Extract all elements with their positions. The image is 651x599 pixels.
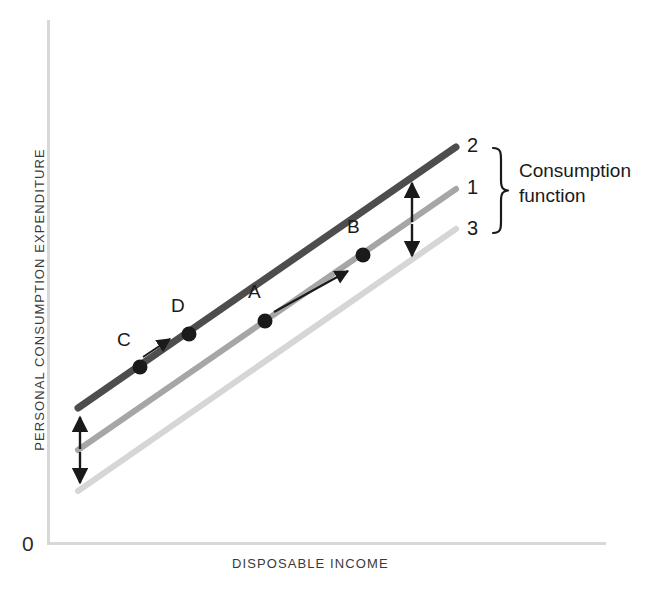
legend-brace: [493, 148, 508, 233]
curly-brace-icon: [493, 148, 508, 233]
chart-canvas: [0, 0, 651, 599]
x-axis-title: DISPOSABLE INCOME: [232, 556, 389, 571]
legend-caption: Consumption function: [519, 158, 649, 208]
data-point-b: [356, 248, 371, 263]
point-label-c: C: [117, 329, 131, 351]
consumption-function-figure: PERSONAL CONSUMPTION EXPENDITURE DISPOSA…: [0, 0, 651, 599]
point-label-b: B: [347, 216, 360, 238]
data-point-c: [133, 360, 148, 375]
origin-label: 0: [22, 532, 34, 556]
curve-label-2: 2: [467, 134, 478, 157]
curve-label-1: 1: [467, 176, 478, 199]
y-axis-title: PERSONAL CONSUMPTION EXPENDITURE: [32, 140, 47, 460]
data-point-d: [182, 327, 197, 342]
consumption-function-line-3: [78, 229, 456, 491]
legend-caption-line-2: function: [519, 183, 649, 208]
data-point-a: [258, 314, 273, 329]
curve-label-3: 3: [467, 217, 478, 240]
point-label-a: A: [248, 281, 261, 303]
point-label-d: D: [171, 295, 185, 317]
arrow-a-to-b: [274, 271, 348, 312]
legend-caption-line-1: Consumption: [519, 158, 649, 183]
